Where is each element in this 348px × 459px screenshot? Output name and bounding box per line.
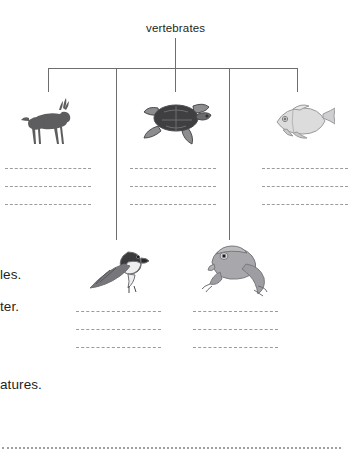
antelope-icon: [16, 96, 86, 146]
turtle-icon: [138, 96, 216, 146]
fish-icon: [263, 96, 335, 146]
margin-text-fragment-2: ter.: [0, 299, 19, 314]
branch-connector-amphibians: [229, 68, 230, 240]
answer-line[interactable]: [76, 311, 161, 312]
answer-line[interactable]: [5, 168, 91, 169]
answer-line[interactable]: [262, 204, 348, 205]
margin-text-fragment-3: atures.: [0, 377, 42, 392]
answer-line[interactable]: [193, 311, 278, 312]
tier1-horizontal-connector: [48, 68, 298, 69]
branch-connector-fish: [297, 68, 298, 92]
answer-line[interactable]: [262, 186, 348, 187]
answer-line[interactable]: [130, 186, 216, 187]
margin-text-fragment-1: les.: [0, 267, 21, 282]
answer-line[interactable]: [193, 329, 278, 330]
branch-connector-mammals: [48, 68, 49, 92]
answer-line[interactable]: [130, 168, 216, 169]
answer-line[interactable]: [5, 204, 91, 205]
bird-icon: [84, 244, 154, 296]
page-bottom-dotted-border: [2, 447, 341, 449]
answer-line[interactable]: [262, 168, 348, 169]
branch-connector-birds: [116, 68, 117, 240]
answer-line[interactable]: [193, 347, 278, 348]
answer-line[interactable]: [76, 329, 161, 330]
root-stem-connector: [175, 38, 176, 68]
tree-root-label: vertebrates: [146, 22, 205, 34]
answer-line[interactable]: [5, 186, 91, 187]
branch-connector-reptiles: [175, 68, 176, 92]
answer-line[interactable]: [76, 347, 161, 348]
answer-line[interactable]: [130, 204, 216, 205]
frog-icon: [198, 242, 268, 298]
